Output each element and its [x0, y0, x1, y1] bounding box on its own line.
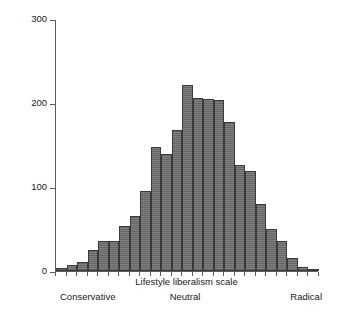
bar: [193, 98, 204, 271]
bar: [277, 241, 288, 271]
y-tick-label-0: 0: [42, 265, 47, 276]
x-tick-25: [318, 272, 319, 276]
bar: [161, 154, 172, 271]
bar: [224, 122, 235, 271]
bar: [308, 269, 319, 271]
bar: [77, 262, 88, 271]
bar: [256, 204, 267, 271]
x-axis-label: Lifestyle liberalism scale: [55, 276, 318, 287]
plot-area: 0100200300: [55, 20, 318, 272]
y-tick-label-100: 100: [31, 181, 47, 192]
bar: [130, 216, 141, 271]
anchor-label-neutral: Neutral: [170, 291, 201, 302]
y-tick-300: 300: [50, 20, 55, 21]
bar: [119, 226, 130, 271]
bar: [182, 85, 193, 271]
bar-series: [56, 20, 318, 271]
y-tick-100: 100: [50, 188, 55, 189]
bar: [88, 250, 99, 271]
bar: [109, 241, 120, 271]
x-axis-anchor-labels: Conservative Neutral Radical: [40, 291, 330, 305]
y-tick-200: 200: [50, 104, 55, 105]
bar: [140, 191, 151, 271]
y-tick-label-200: 200: [31, 97, 47, 108]
anchor-label-conservative: Conservative: [60, 291, 115, 302]
bar: [245, 171, 256, 271]
anchor-label-radical: Radical: [290, 291, 322, 302]
bar: [172, 130, 183, 271]
bar: [287, 258, 298, 271]
histogram-figure: No of respondents 0100200300 Lifestyle l…: [0, 0, 341, 319]
bar: [203, 99, 214, 271]
bar: [98, 241, 109, 271]
bar: [298, 267, 309, 271]
bar: [235, 165, 246, 271]
bar: [56, 268, 67, 271]
y-tick-label-300: 300: [31, 13, 47, 24]
bar: [214, 100, 225, 271]
x-axis-line: [55, 271, 318, 272]
bar: [266, 229, 277, 271]
bar: [151, 147, 162, 271]
bar: [67, 265, 78, 271]
